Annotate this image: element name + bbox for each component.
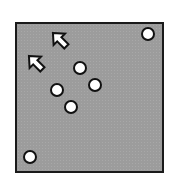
circles-group [24, 28, 154, 163]
arrow-up-left-icon [47, 27, 72, 52]
circle-marker [74, 62, 86, 74]
arrows-group [23, 27, 72, 75]
circle-marker [51, 84, 63, 96]
circle-marker [142, 28, 154, 40]
arrow-up-left-icon [23, 50, 48, 75]
circle-marker [65, 101, 77, 113]
diagram-overlay [0, 0, 173, 190]
circle-marker [24, 151, 36, 163]
circle-marker [89, 79, 101, 91]
